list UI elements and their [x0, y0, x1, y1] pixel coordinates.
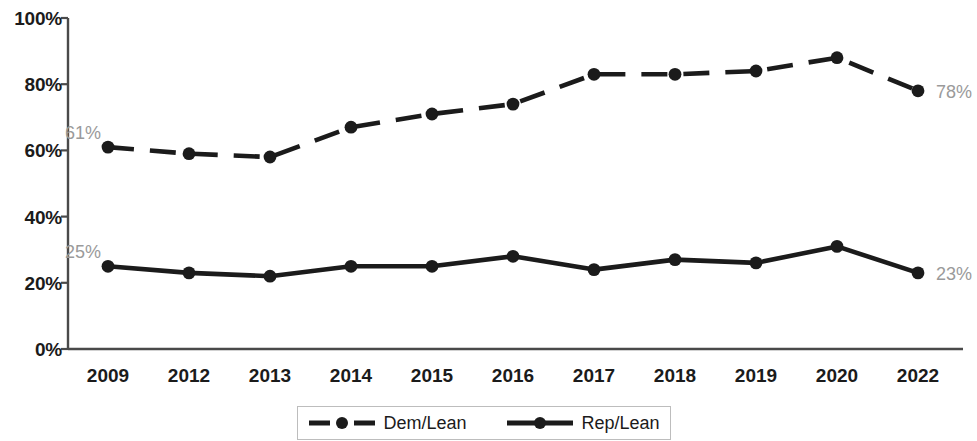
y-axis-tick-label: 80% — [0, 75, 62, 94]
x-axis-tick-label: 2020 — [792, 366, 882, 385]
chart-legend: Dem/Lean Rep/Lean — [297, 406, 671, 440]
legend-swatch-rep-icon — [506, 416, 574, 430]
annotation-rep-start: 25% — [65, 243, 101, 261]
legend-swatch-dem-icon — [308, 416, 376, 430]
x-axis-tick-label: 2012 — [144, 366, 234, 385]
legend-label-dem: Dem/Lean — [383, 414, 466, 432]
y-axis-tick-label: 60% — [0, 141, 62, 160]
series-markers-dem — [102, 51, 925, 163]
x-axis-tick-label: 2013 — [225, 366, 315, 385]
x-axis-tick-label: 2014 — [306, 366, 396, 385]
y-axis-tick-label: 40% — [0, 208, 62, 227]
x-axis-tick-label: 2018 — [630, 366, 720, 385]
chart-root: 0%20%40%60%80%100% 200920122013201420152… — [0, 0, 977, 441]
annotation-dem-end: 78% — [936, 83, 972, 101]
x-axis-tick-label: 2019 — [711, 366, 801, 385]
x-axis-tick-label: 2015 — [387, 366, 477, 385]
legend-entry-dem[interactable]: Dem/Lean — [308, 414, 466, 432]
x-axis-tick-label: 2009 — [63, 366, 153, 385]
y-axis-tick-label: 0% — [0, 340, 62, 359]
annotation-rep-end: 23% — [936, 265, 972, 283]
y-axis-tick-label: 20% — [0, 274, 62, 293]
annotation-dem-start: 61% — [65, 124, 101, 142]
x-axis-tick-label: 2017 — [549, 366, 639, 385]
y-axis-tick-label: 100% — [0, 9, 62, 28]
x-axis-tick-label: 2022 — [873, 366, 963, 385]
legend-entry-rep[interactable]: Rep/Lean — [506, 414, 659, 432]
legend-label-rep: Rep/Lean — [581, 414, 659, 432]
x-axis-tick-label: 2016 — [468, 366, 558, 385]
